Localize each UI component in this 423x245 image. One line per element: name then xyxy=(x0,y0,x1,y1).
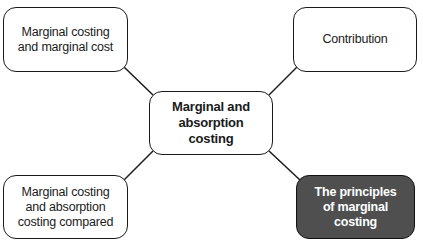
connector-top-right xyxy=(269,67,297,95)
node-label: Contribution xyxy=(322,32,387,47)
node-principles-of-marginal-costing: The principles of marginal costing xyxy=(296,175,415,239)
connector-bottom-right xyxy=(269,151,300,180)
node-label: Marginal costing and absorption costing … xyxy=(14,185,117,230)
connector-top-left xyxy=(124,67,153,95)
node-marginal-vs-absorption-compared: Marginal costing and absorption costing … xyxy=(3,175,128,239)
node-contribution: Contribution xyxy=(293,7,417,72)
node-label: The principles of marginal costing xyxy=(309,185,402,230)
connector-bottom-left xyxy=(124,151,153,180)
node-marginal-costing-and-marginal-cost: Marginal costing and marginal cost xyxy=(3,7,128,72)
node-center-marginal-and-absorption-costing: Marginal and absorption costing xyxy=(149,91,273,155)
center-label: Marginal and absorption costing xyxy=(156,99,266,147)
node-label: Marginal costing and marginal cost xyxy=(10,25,121,55)
